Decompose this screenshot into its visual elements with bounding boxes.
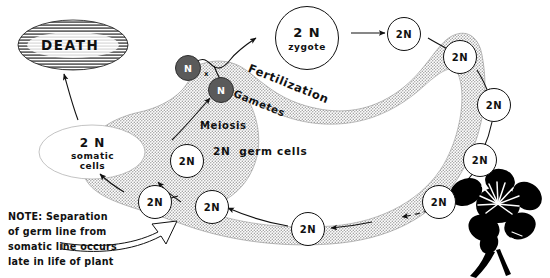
somatic-line-1: somatic — [71, 151, 114, 161]
cell-node-3-label: 2N — [486, 100, 502, 111]
note-line-4: late in life of plant — [8, 256, 114, 267]
gamete-1-label: N — [184, 63, 192, 74]
gamete-2-label: N — [217, 85, 225, 96]
somatic-ploidy: 2 N — [80, 136, 106, 150]
arrow-somatic-to-death — [64, 74, 78, 120]
note-line-2: of germ line from — [8, 226, 107, 237]
cell-node-2: 2N — [443, 40, 477, 74]
cell-node-2-label: 2N — [452, 52, 468, 63]
gamete-node-2: N — [208, 77, 234, 103]
cell-node-4-label: 2N — [472, 155, 488, 166]
zygote-name: zygote — [288, 42, 326, 52]
cell-node-6: 2N — [291, 212, 325, 246]
zygote-node: 2 N zygote — [275, 6, 339, 70]
cell-node-5: 2N — [422, 185, 456, 219]
cell-node-7-label: 2N — [204, 202, 220, 213]
death-label: DEATH — [41, 38, 99, 54]
meiosis-label: Meiosis — [200, 120, 247, 132]
cross-symbol: x — [204, 70, 209, 78]
germ-cells-label: 2N germ cells — [213, 145, 307, 157]
cell-node-6-label: 2N — [300, 224, 316, 235]
cell-node-1: 2N — [387, 17, 421, 51]
note-line-1: NOTE: Separation — [8, 211, 108, 222]
flower-silhouette — [445, 166, 548, 278]
note-line-3: somatic line occurs — [8, 241, 117, 252]
cell-node-5-label: 2N — [431, 197, 447, 208]
cell-node-3: 2N — [477, 88, 511, 122]
zygote-ploidy: 2 N — [293, 25, 320, 40]
cell-node-8: 2N — [138, 185, 172, 219]
cell-node-1-label: 2N — [396, 29, 412, 40]
somatic-line-2: cells — [80, 161, 105, 171]
cell-node-8-label: 2N — [147, 197, 163, 208]
cell-node-9: 2N — [170, 144, 204, 178]
cell-node-7: 2N — [195, 190, 229, 224]
gamete-node-1: N — [175, 55, 201, 81]
cell-node-4: 2N — [463, 143, 497, 177]
diagram-canvas: DEATH 2 N zygote 2 N somatic cells N N x… — [0, 0, 550, 278]
cell-node-9-label: 2N — [179, 156, 195, 167]
somatic-cells-node: 2 N somatic cells — [45, 128, 140, 178]
